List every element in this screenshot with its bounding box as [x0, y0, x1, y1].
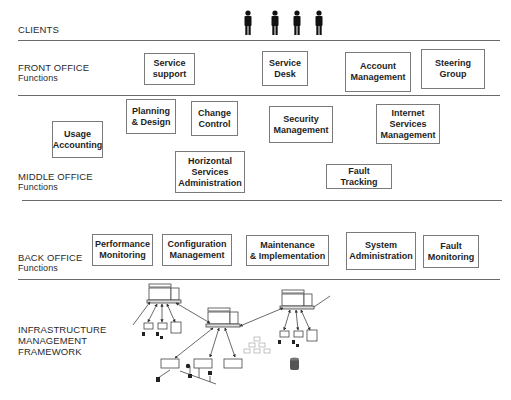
- workstation-icon: [194, 359, 212, 368]
- database-icon: [290, 357, 299, 370]
- infrastructure-network-diagram: [0, 0, 511, 400]
- workstation-icon: [294, 331, 303, 337]
- hierarchy-icon: [244, 337, 270, 353]
- printer-icon: [208, 371, 212, 375]
- workstation-icon: [161, 359, 179, 368]
- workstation-icon: [171, 322, 181, 333]
- workstation-icon: [280, 331, 289, 337]
- printer-icon: [156, 377, 160, 382]
- workstation-icon: [224, 359, 242, 368]
- workstation-icon: [307, 330, 317, 341]
- printer-icon: [188, 374, 192, 378]
- workstation-icon: [144, 323, 153, 329]
- server-icon: [147, 284, 181, 303]
- workstation-icon: [158, 323, 167, 329]
- server-icon: [280, 290, 314, 309]
- server-icon: [206, 308, 240, 327]
